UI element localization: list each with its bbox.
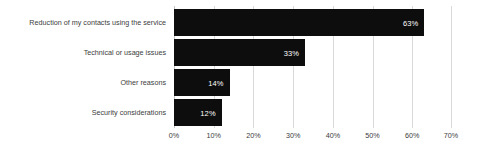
category-axis-labels: Reduction of my contacts using the servi… [0,6,170,128]
bar-row: 63% [174,9,452,36]
horizontal-bar-chart: Reduction of my contacts using the servi… [0,0,484,147]
x-tick-label: 30% [286,131,300,140]
bar[interactable]: 33% [174,39,305,66]
bar-row: 14% [174,69,452,96]
bar[interactable]: 63% [174,9,424,36]
x-tick-label: 60% [405,131,419,140]
x-axis-tick-labels: 0% 10% 20% 30% 40% 50% 60% 70% [174,128,452,144]
x-tick-label: 50% [365,131,379,140]
bar[interactable]: 12% [174,99,222,126]
bar-row: 33% [174,39,452,66]
x-tick-label: 40% [326,131,340,140]
bar-rows: 63% 33% 14% 12% [174,6,452,128]
bar-value-label: 14% [208,78,223,87]
category-label: Other reasons [0,69,170,96]
x-tick-label: 20% [246,131,260,140]
category-label: Technical or usage issues [0,39,170,66]
x-tick-label: 10% [207,131,221,140]
bar-value-label: 12% [200,108,215,117]
category-label: Reduction of my contacts using the servi… [0,9,170,36]
bar-value-label: 33% [284,48,299,57]
x-tick-label: 70% [444,131,458,140]
bar[interactable]: 14% [174,69,230,96]
plot-area: 63% 33% 14% 12% [174,6,452,128]
category-label: Security considerations [0,99,170,126]
bar-row: 12% [174,99,452,126]
x-tick-label: 0% [169,131,179,140]
bar-value-label: 63% [403,18,418,27]
